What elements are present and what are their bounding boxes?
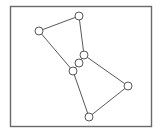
node-layer: [35, 12, 132, 121]
graph-node: [35, 27, 43, 35]
graph-node: [75, 59, 83, 67]
graph-edge: [39, 16, 79, 31]
graph-edge: [84, 55, 128, 86]
graph-node: [75, 12, 83, 20]
graph-edge: [73, 71, 89, 117]
figure-container: [0, 0, 161, 136]
graph-edge: [89, 86, 128, 117]
node-link-graph: [0, 0, 161, 136]
graph-edge: [39, 31, 73, 71]
edge-layer: [39, 16, 128, 117]
graph-node: [69, 67, 77, 75]
graph-node: [80, 51, 88, 59]
graph-node: [85, 113, 93, 121]
graph-edge: [79, 16, 84, 55]
graph-node: [124, 82, 132, 90]
